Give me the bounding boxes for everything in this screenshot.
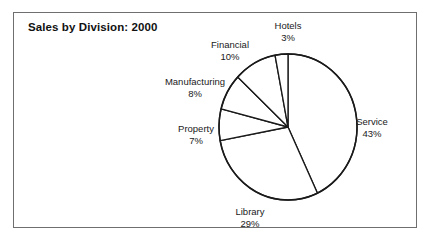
pie-label-name: Service: [356, 116, 388, 128]
pie-label-name: Property: [178, 123, 214, 135]
pie-label-name: Library: [235, 206, 264, 218]
chart-figure: Sales by Division: 2000 Service43%Librar…: [0, 0, 430, 243]
pie-label-name: Financial: [211, 39, 249, 51]
pie-label-value: 7%: [178, 135, 214, 147]
pie-label-property: Property7%: [178, 123, 214, 146]
pie-label-library: Library29%: [235, 206, 264, 229]
pie-label-value: 29%: [235, 218, 264, 230]
pie-label-value: 8%: [165, 88, 225, 100]
pie-label-service: Service43%: [356, 116, 388, 139]
pie-label-value: 3%: [275, 32, 302, 44]
pie-label-value: 10%: [211, 51, 249, 63]
pie-label-name: Manufacturing: [165, 76, 225, 88]
pie-label-name: Hotels: [275, 20, 302, 32]
pie-label-value: 43%: [356, 128, 388, 140]
pie-label-hotels: Hotels3%: [275, 20, 302, 43]
pie-label-financial: Financial10%: [211, 39, 249, 62]
pie-label-manufacturing: Manufacturing8%: [165, 76, 225, 99]
